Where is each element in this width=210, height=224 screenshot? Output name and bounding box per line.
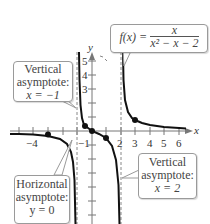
point-3 <box>132 117 138 123</box>
vertical-asymptote-right-callout: Vertical asymptote: x = 2 <box>138 153 197 199</box>
x-tick-5: 5 <box>161 138 167 149</box>
x-tick-6: 6 <box>176 138 182 149</box>
callout-equation: x = 2 <box>139 182 196 195</box>
x-tick-3: 3 <box>132 138 138 149</box>
curve-right-branch <box>123 52 186 129</box>
y-tick-5: 5 <box>82 56 88 67</box>
function-denominator: x² − x − 2 <box>150 37 198 49</box>
x-tick-4: 4 <box>147 138 153 149</box>
callout-equation: x = −1 <box>14 89 72 102</box>
point-neg-half <box>82 123 88 129</box>
x-tick-neg4: −4 <box>26 138 38 149</box>
callout-equation: y = 0 <box>15 204 69 217</box>
y-tick-4: 4 <box>82 70 88 81</box>
function-callout: f(x) = x x² − x − 2 <box>110 24 208 53</box>
x-axis-label: x <box>194 125 199 136</box>
x-axis <box>10 127 193 135</box>
point-1 <box>103 135 109 141</box>
point-neg4 <box>45 132 51 138</box>
point-origin <box>89 128 95 134</box>
horizontal-asymptote-callout: Horizontal asymptote: y = 0 <box>14 175 70 224</box>
y-axis-label: y <box>88 42 93 53</box>
x-tick-neg1: −1 <box>78 138 90 149</box>
function-fraction: x x² − x − 2 <box>150 25 198 49</box>
x-tick-2: 2 <box>117 138 123 149</box>
vertical-asymptote-left-callout: Vertical asymptote: x = −1 <box>13 61 73 102</box>
function-lhs: f(x) = <box>119 30 147 44</box>
y-tick-3: 3 <box>82 84 88 95</box>
